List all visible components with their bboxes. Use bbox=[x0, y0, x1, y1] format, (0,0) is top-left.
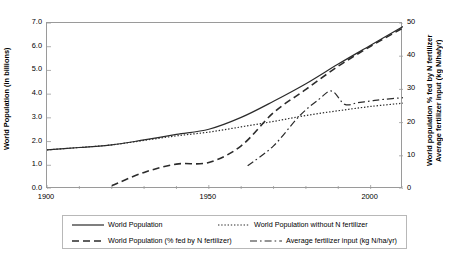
y-tick-label-right: 20 bbox=[407, 117, 433, 126]
legend-swatch-solid bbox=[71, 219, 105, 230]
series-line-1 bbox=[47, 103, 403, 150]
legend-item-world-population-pct-fed: World Population (% fed by N fertilizer) bbox=[71, 232, 232, 249]
y-axis-left-title: World Population (in billions) bbox=[2, 34, 13, 164]
plot-svg bbox=[47, 23, 403, 189]
y-tick-label-left: 3.0 bbox=[16, 112, 42, 121]
x-tick-label: 2000 bbox=[350, 192, 390, 201]
y-tick-label-right: 30 bbox=[407, 83, 433, 92]
legend-label: World Population bbox=[105, 220, 163, 229]
y-tick-label-right: 10 bbox=[407, 150, 433, 159]
y-tick-label-right: 0 bbox=[407, 183, 433, 192]
legend-item-average-fertilizer-input: Average fertilizer input (kg N/ha/yr) bbox=[249, 232, 397, 249]
y-tick-label-right: 40 bbox=[407, 50, 433, 59]
y-tick-label-left: 5.0 bbox=[16, 64, 42, 73]
series-line-0 bbox=[47, 27, 403, 150]
legend-label: World Population (% fed by N fertilizer) bbox=[105, 236, 232, 245]
y-tick-label-left: 7.0 bbox=[16, 17, 42, 26]
y-tick-label-left: 4.0 bbox=[16, 88, 42, 97]
legend-swatch-dotted bbox=[217, 219, 251, 230]
chart-legend: World Population World Population withou… bbox=[62, 215, 407, 249]
legend-label: World Population without N fertilizer bbox=[251, 220, 368, 229]
legend-swatch-dash-dot bbox=[249, 235, 283, 246]
y-tick-label-right: 50 bbox=[407, 17, 433, 26]
legend-swatch-dashed bbox=[71, 235, 105, 246]
plot-area bbox=[46, 22, 402, 188]
legend-label: Average fertilizer input (kg N/ha/yr) bbox=[283, 236, 397, 245]
y-tick-label-left: 2.0 bbox=[16, 136, 42, 145]
x-tick-label: 1900 bbox=[26, 192, 66, 201]
legend-item-world-population-without-n-fertilizer: World Population without N fertilizer bbox=[217, 216, 368, 233]
y-tick-label-left: 0.0 bbox=[16, 183, 42, 192]
chart-figure: World Population (in billions) World pop… bbox=[0, 0, 470, 256]
x-tick-label: 1950 bbox=[188, 192, 228, 201]
y-tick-label-left: 6.0 bbox=[16, 41, 42, 50]
legend-item-world-population: World Population bbox=[71, 216, 163, 233]
y-tick-label-left: 1.0 bbox=[16, 159, 42, 168]
